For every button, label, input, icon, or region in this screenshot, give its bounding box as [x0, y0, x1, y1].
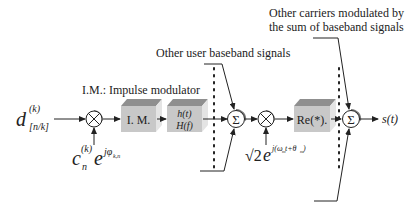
svg-text:√2: √2 [245, 147, 262, 164]
summer-2: Σ [343, 109, 362, 128]
block-diagram: d (k) [n/k] c (k) n e jφ k,n I.M.: Impul… [0, 0, 417, 210]
spreading-code-label: c (k) n e jφ k,n [72, 143, 120, 172]
sum-icon: Σ [232, 112, 240, 127]
filter-impulse-response: h(t) [177, 108, 192, 120]
svg-text:d: d [16, 108, 27, 130]
svg-text:jφ: jφ [102, 146, 113, 157]
im-block-label: I. M. [127, 113, 151, 127]
svg-text:t+θ: t+θ [285, 144, 297, 153]
other-carriers-arrow-top [313, 38, 349, 109]
other-users-arrow-top [204, 64, 234, 109]
multiplier-1 [86, 110, 103, 127]
other-users-arrow-bottom [200, 129, 234, 171]
svg-text:[n/k]: [n/k] [29, 121, 49, 132]
re-block-label: Re(*). [297, 113, 327, 127]
svg-text:e: e [263, 145, 271, 165]
input-symbol-d: d (k) [n/k] [16, 103, 49, 132]
other-users-annotation: Other user baseband signals [156, 46, 291, 60]
svg-text:(k): (k) [29, 103, 41, 115]
svg-text:n: n [82, 161, 87, 172]
carrier-label: √2 e j(ω m t+θ m ) [245, 144, 306, 165]
filter-frequency-response: H(f) [175, 120, 193, 132]
pulse-shaping-filter-block: h(t) H(f) [167, 99, 208, 132]
multiplier-2 [258, 110, 275, 127]
other-carriers-annotation-line1: Other carriers modulated by [269, 6, 404, 20]
svg-text:(k): (k) [81, 143, 93, 155]
svg-text:e: e [94, 147, 103, 169]
svg-text:): ) [302, 144, 306, 153]
svg-text:c: c [72, 147, 81, 169]
real-part-block: Re(*). [294, 99, 336, 132]
sum-icon: Σ [347, 112, 355, 127]
other-carriers-arrow-bottom [314, 129, 349, 201]
impulse-modulator-legend: I.M.: Impulse modulator [82, 83, 200, 97]
svg-text:k,n: k,n [113, 153, 120, 159]
output-signal-label: s(t) [382, 112, 398, 126]
impulse-modulator-block: I. M. [121, 99, 162, 132]
other-carriers-annotation-line2: the sum of baseband signals [269, 20, 404, 34]
summer-1: Σ [228, 109, 247, 128]
